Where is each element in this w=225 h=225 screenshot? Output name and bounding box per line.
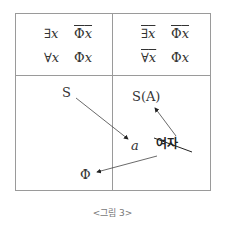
arrow-s-to-a (76, 98, 128, 139)
arrows-layer (0, 0, 225, 225)
arrow-woman-to-sa (155, 108, 176, 136)
strike-through-line (154, 138, 192, 152)
figure-caption: <그림 3> (0, 206, 225, 219)
arrow-woman-to-phi (97, 156, 157, 172)
